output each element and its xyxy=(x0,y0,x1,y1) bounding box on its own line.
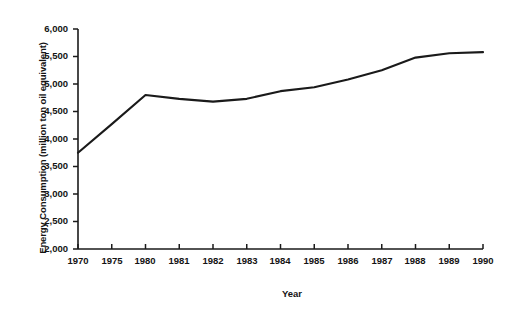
plot-area xyxy=(0,0,517,318)
axis-spines xyxy=(78,29,483,249)
chart-figure: Energy Consumption (million ton oil equi… xyxy=(0,0,517,318)
data-line-energy-consumption xyxy=(78,52,483,153)
